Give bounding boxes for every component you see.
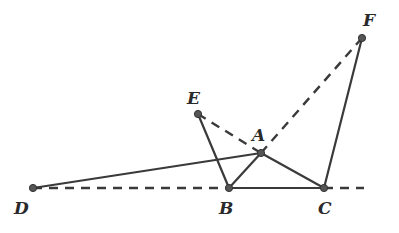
point-e xyxy=(194,110,201,117)
label-f: F xyxy=(362,10,377,30)
label-d: D xyxy=(13,198,29,218)
point-c xyxy=(320,184,327,191)
points xyxy=(29,34,365,191)
point-b xyxy=(225,184,232,191)
point-a xyxy=(257,149,264,156)
geometry-diagram: DBCAEF xyxy=(0,0,399,233)
label-b: B xyxy=(218,198,233,218)
label-c: C xyxy=(318,198,332,218)
segment-cf xyxy=(324,38,362,188)
segment-eb xyxy=(198,114,229,188)
label-e: E xyxy=(186,88,201,108)
point-d xyxy=(29,184,36,191)
point-f xyxy=(358,34,365,41)
label-a: A xyxy=(250,125,265,145)
segment-ac xyxy=(261,153,324,188)
